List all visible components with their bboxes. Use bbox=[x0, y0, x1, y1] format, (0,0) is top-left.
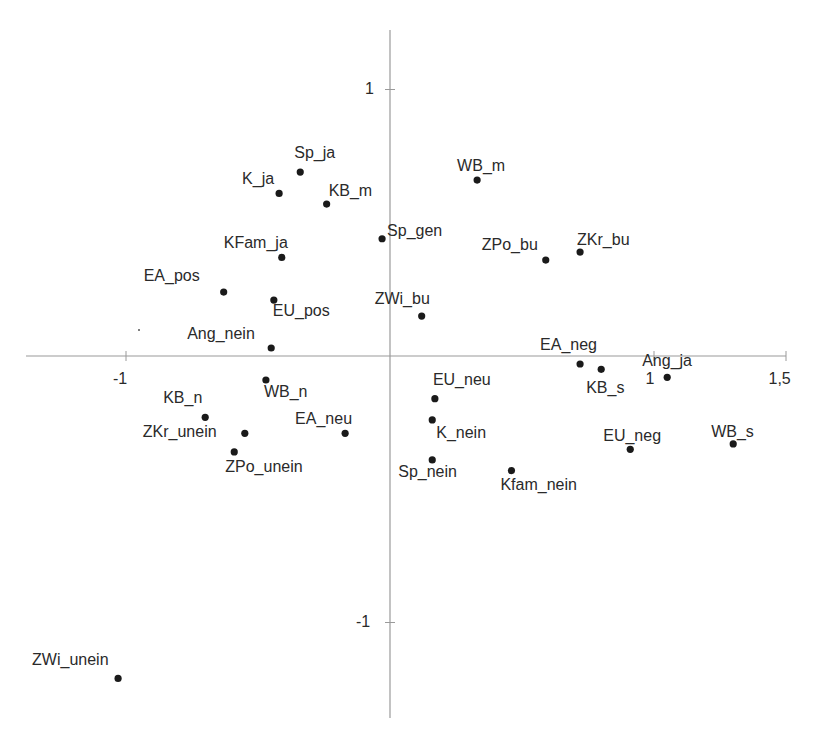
y-tick-label: 1 bbox=[365, 81, 374, 97]
point-label: KB_s bbox=[586, 380, 624, 396]
data-point bbox=[474, 177, 481, 184]
point-label: EA_pos bbox=[144, 268, 200, 284]
data-point bbox=[429, 416, 436, 423]
data-point bbox=[268, 344, 275, 351]
data-point bbox=[598, 366, 605, 373]
scatter-plot bbox=[0, 0, 826, 737]
point-label: Sp_nein bbox=[398, 464, 457, 480]
point-label: ZPo_bu bbox=[482, 237, 538, 253]
point-label: WB_s bbox=[711, 424, 754, 440]
point-label: KB_m bbox=[329, 183, 373, 199]
point-label: KB_n bbox=[163, 390, 202, 406]
stray-dot bbox=[138, 329, 140, 331]
data-point bbox=[730, 440, 737, 447]
data-point bbox=[231, 448, 238, 455]
data-point bbox=[508, 467, 515, 474]
data-point bbox=[664, 374, 671, 381]
data-point bbox=[378, 235, 385, 242]
point-label: Ang_ja bbox=[642, 353, 692, 369]
data-point bbox=[276, 190, 283, 197]
data-point bbox=[297, 169, 304, 176]
point-label: EU_neu bbox=[433, 372, 491, 388]
point-label: K_nein bbox=[436, 425, 486, 441]
data-point bbox=[542, 256, 549, 263]
x-tick-label: 1,5 bbox=[769, 371, 791, 387]
point-label: WB_m bbox=[457, 158, 505, 174]
data-point bbox=[241, 430, 248, 437]
point-label: EA_neu bbox=[295, 411, 352, 427]
point-label: ZWi_unein bbox=[32, 652, 108, 668]
point-label: Ang_nein bbox=[187, 326, 255, 342]
data-point bbox=[202, 414, 209, 421]
x-tick-label: -1 bbox=[113, 371, 127, 387]
data-point bbox=[576, 360, 583, 367]
point-label: Kfam_nein bbox=[500, 477, 577, 493]
data-point bbox=[220, 288, 227, 295]
point-label: EU_pos bbox=[273, 303, 330, 319]
point-label: WB_n bbox=[264, 384, 308, 400]
data-point bbox=[323, 200, 330, 207]
x-tick-label: 1 bbox=[646, 371, 655, 387]
y-tick-label: -1 bbox=[356, 614, 370, 630]
data-point bbox=[342, 430, 349, 437]
point-label: KFam_ja bbox=[224, 235, 288, 251]
point-label: EA_neg bbox=[540, 337, 597, 353]
data-point bbox=[114, 675, 121, 682]
point-label: EU_neg bbox=[603, 428, 661, 444]
data-point bbox=[431, 395, 438, 402]
point-label: K_ja bbox=[242, 171, 274, 187]
point-label: ZWi_bu bbox=[375, 291, 430, 307]
data-point bbox=[418, 312, 425, 319]
data-point bbox=[576, 248, 583, 255]
data-point bbox=[278, 254, 285, 261]
point-label: Sp_gen bbox=[387, 223, 442, 239]
point-label: Sp_ja bbox=[294, 145, 335, 161]
point-label: ZPo_unein bbox=[225, 459, 302, 475]
point-label: ZKr_unein bbox=[143, 424, 217, 440]
data-point bbox=[627, 446, 634, 453]
point-label: ZKr_bu bbox=[577, 232, 629, 248]
